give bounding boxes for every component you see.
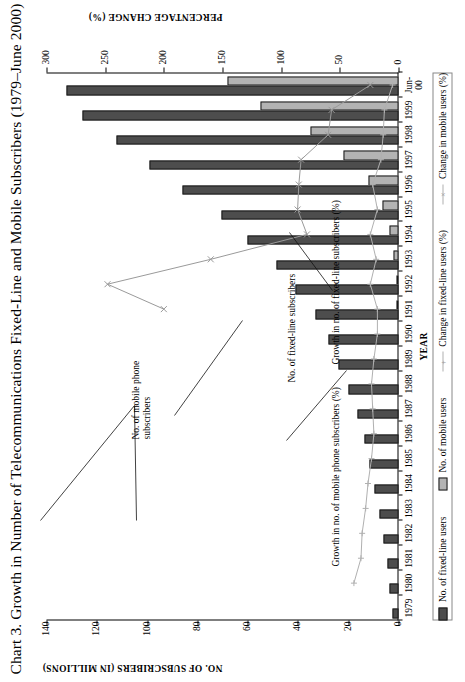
right-tick-label: 0 <box>393 59 403 64</box>
callout-fixed-growth: Growth in no. of fixed-line subscribers … <box>330 200 341 364</box>
x-tick-mark <box>398 445 402 446</box>
legend-line-swatch-icon: + <box>438 351 447 371</box>
x-tick-label: 1996 <box>404 175 414 194</box>
right-tick-mark <box>46 67 47 72</box>
x-tick-label: 1993 <box>404 249 414 268</box>
x-tick-label: 1997 <box>404 150 414 169</box>
x-tick-mark <box>398 71 402 72</box>
x-tick-mark <box>398 370 402 371</box>
x-tick-mark <box>398 295 402 296</box>
right-tick-label: 100 <box>276 50 286 64</box>
right-tick-label: 300 <box>41 50 51 64</box>
leader-line <box>174 320 242 415</box>
x-tick-mark <box>398 320 402 321</box>
legend-item[interactable]: ×Change in mobile users (%) <box>437 72 447 203</box>
right-tick-mark <box>281 67 282 72</box>
x-tick-mark <box>398 146 402 147</box>
legend-label: Change in mobile users (%) <box>437 72 447 178</box>
legend-bar-swatch-icon <box>438 607 447 620</box>
x-tick-label: 1999 <box>404 100 414 119</box>
x-tick-mark <box>398 270 402 271</box>
right-axis-title: PERCENTAGE CHANGE (%) <box>88 11 222 21</box>
left-tick-label: 0 <box>393 621 403 626</box>
right-tick-mark <box>339 67 340 72</box>
x-tick-label: 1989 <box>404 349 414 368</box>
left-axis-title: NO. OF SUBSCRIBERS (IN MILLIONS) <box>42 662 222 672</box>
callout-leader-lines <box>46 72 398 620</box>
left-tick-label: 40 <box>293 621 303 631</box>
x-tick-label: Jun-00 <box>404 76 423 92</box>
callout-fixed-bars: No. of fixed-line subscribers <box>286 273 297 382</box>
legend-item[interactable]: No. of mobile users <box>437 397 447 490</box>
x-tick-mark <box>398 494 402 495</box>
x-tick-label: 1985 <box>404 449 414 468</box>
x-tick-mark <box>398 220 402 221</box>
right-tick-label: 200 <box>159 50 169 64</box>
x-tick-mark <box>398 245 402 246</box>
callout-mobile-growth: Growth in no. of mobile phone subscriber… <box>330 387 341 566</box>
rotated-figure-canvas: Chart 3. Growth in Number of Telecommuni… <box>0 0 465 682</box>
x-tick-label: 1983 <box>404 498 414 517</box>
right-tick-label: 150 <box>217 50 227 64</box>
plot-area: 020406080100120140 050100150200250300 19… <box>46 72 398 620</box>
legend: No. of fixed-line usersNo. of mobile use… <box>432 72 452 620</box>
legend-bar-swatch-icon <box>438 477 447 490</box>
x-tick-mark <box>398 196 402 197</box>
x-tick-label: 1987 <box>404 399 414 418</box>
leader-line <box>40 405 134 520</box>
x-tick-label: 1990 <box>404 324 414 343</box>
x-tick-mark <box>398 395 402 396</box>
left-tick-label: 120 <box>92 621 102 635</box>
x-tick-label: 1994 <box>404 224 414 243</box>
x-tick-mark <box>398 96 402 97</box>
callout-mobile-bars: No. of mobile phone subscribers <box>130 360 152 439</box>
x-tick-mark <box>398 171 402 172</box>
legend-label: No. of mobile users <box>437 397 447 472</box>
legend-label: No. of fixed-line users <box>437 516 447 601</box>
legend-item[interactable]: No. of fixed-line users <box>437 516 447 619</box>
x-tick-mark <box>398 470 402 471</box>
right-tick-mark <box>222 67 223 72</box>
left-tick-label: 20 <box>343 621 353 631</box>
x-tick-mark <box>398 594 402 595</box>
x-axis-title: YEAR <box>418 332 428 360</box>
x-tick-label: 1984 <box>404 474 414 493</box>
legend-item[interactable]: +Change in fixed-line users (%) <box>437 230 447 372</box>
x-tick-label: 1986 <box>404 424 414 443</box>
x-tick-label: 1992 <box>404 274 414 293</box>
x-tick-label: 1980 <box>404 573 414 592</box>
legend-label: Change in fixed-line users (%) <box>437 230 447 347</box>
x-tick-label: 1979 <box>404 598 414 617</box>
x-tick-mark <box>398 345 402 346</box>
left-tick-label: 140 <box>41 621 51 635</box>
left-tick-label: 100 <box>142 621 152 635</box>
left-tick-label: 80 <box>192 621 202 631</box>
right-tick-label: 250 <box>100 50 110 64</box>
right-tick-mark <box>163 67 164 72</box>
x-tick-mark <box>398 544 402 545</box>
legend-line-swatch-icon: × <box>438 184 447 204</box>
right-tick-label: 50 <box>335 55 345 65</box>
right-tick-mark <box>105 67 106 72</box>
x-tick-label: 1998 <box>404 125 414 144</box>
x-tick-mark <box>398 569 402 570</box>
left-tick-label: 60 <box>242 621 252 631</box>
chart-page: Chart 3. Growth in Number of Telecommuni… <box>0 0 465 682</box>
x-tick-mark <box>398 519 402 520</box>
x-tick-label: 1995 <box>404 200 414 219</box>
page-title: Chart 3. Growth in Number of Telecommuni… <box>6 4 24 674</box>
x-tick-mark <box>398 420 402 421</box>
x-tick-mark <box>398 619 402 620</box>
x-tick-label: 1981 <box>404 548 414 567</box>
x-tick-mark <box>398 121 402 122</box>
x-tick-label: 1991 <box>404 299 414 318</box>
x-tick-label: 1988 <box>404 374 414 393</box>
x-tick-label: 1982 <box>404 523 414 542</box>
